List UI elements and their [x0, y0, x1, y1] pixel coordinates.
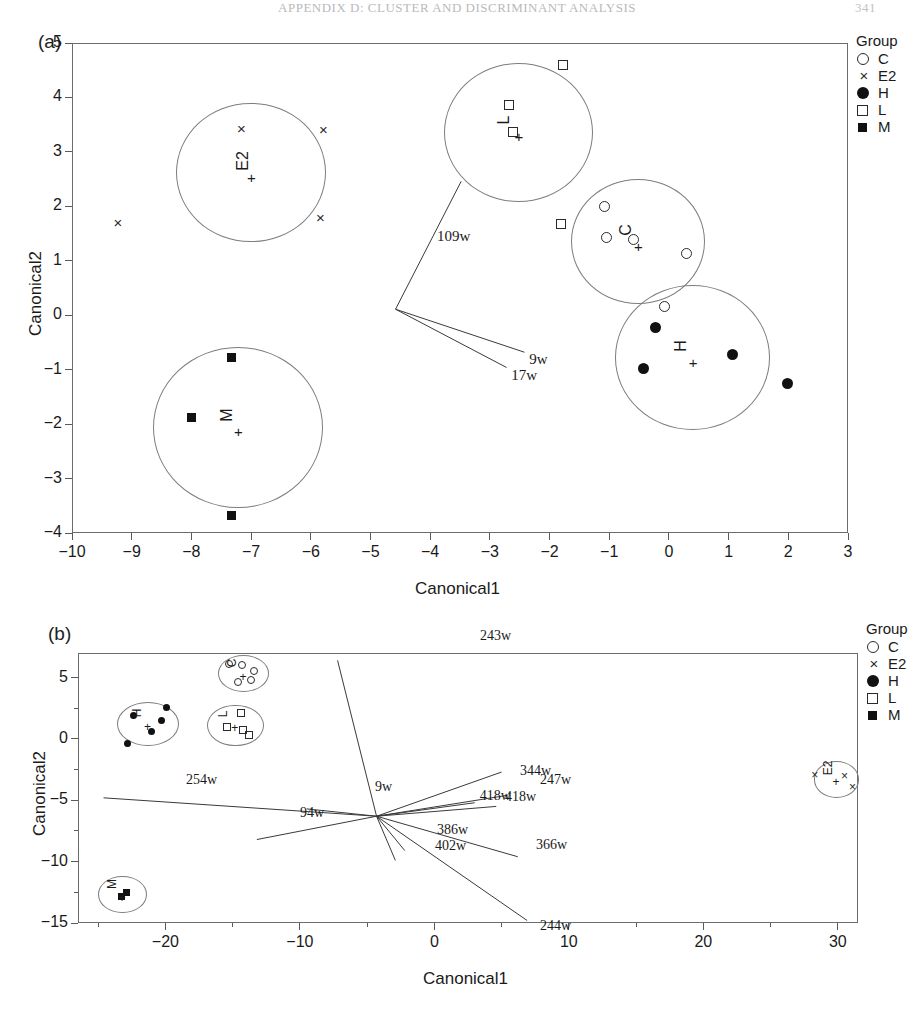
filled-square-icon	[868, 711, 877, 720]
xaxis-tick-major	[848, 533, 849, 540]
open-square-marker	[223, 723, 231, 731]
xaxis-tick-minor	[232, 923, 233, 927]
open-square-icon	[867, 693, 878, 704]
yaxis-tick-major	[65, 206, 72, 207]
xaxis-tick-label: 30	[812, 933, 864, 951]
centroid-plus-marker: +	[234, 424, 243, 439]
xaxis-tick-major	[191, 533, 192, 540]
xaxis-tick-major	[703, 923, 704, 930]
xaxis-tick-minor	[98, 923, 99, 927]
vector-label-386w: 386w	[437, 822, 468, 838]
centroid-plus-marker: +	[118, 892, 125, 904]
figure-page: APPENDIX D: CLUSTER AND DISCRIMINANT ANA…	[0, 0, 914, 1011]
xaxis-tick-label: −8	[165, 543, 217, 561]
cross-x-marker: ×	[811, 769, 818, 781]
vector-label-402w: 402w	[435, 838, 466, 854]
xaxis-tick-minor	[770, 923, 771, 927]
xaxis-tick-label: −4	[404, 543, 456, 561]
xaxis-tick-label: 2	[762, 543, 814, 561]
xaxis-tick-major	[434, 923, 435, 930]
yaxis-tick-minor	[74, 830, 78, 831]
legend-item-c: C	[866, 639, 908, 656]
filled-circle-marker	[727, 349, 738, 360]
vector-label-366w: 366w	[536, 837, 567, 853]
yaxis-tick-label: 2	[24, 196, 62, 214]
vector-label-247w: 247w	[540, 772, 571, 788]
yaxis-tick-label: 1	[24, 251, 62, 269]
yaxis-tick-major	[71, 677, 78, 678]
yaxis-tick-label: −5	[30, 790, 68, 808]
xaxis-tick-major	[728, 533, 729, 540]
xaxis-tick-label: −5	[344, 543, 396, 561]
yaxis-tick-major	[65, 43, 72, 44]
centroid-plus-marker: +	[689, 355, 698, 370]
yaxis-tick-major	[71, 861, 78, 862]
xaxis-tick-label: −9	[106, 543, 158, 561]
centroid-plus-marker: +	[247, 170, 256, 185]
xaxis-tick-major	[430, 533, 431, 540]
vector-label-243w: 243w	[480, 628, 511, 644]
yaxis-tick-label: −2	[24, 414, 62, 432]
cross-x-marker: ×	[237, 121, 246, 136]
yaxis-tick-label: 3	[24, 142, 62, 160]
yaxis-tick-major	[71, 738, 78, 739]
xaxis-tick-label: −3	[464, 543, 516, 561]
xaxis-tick-label: 1	[703, 543, 755, 561]
open-square-marker	[245, 731, 253, 739]
xaxis-tick-major	[668, 533, 669, 540]
filled-circle-icon	[867, 675, 879, 687]
xaxis-tick-label: 10	[543, 933, 595, 951]
open-square-marker	[558, 60, 568, 70]
xaxis-tick-major	[788, 533, 789, 540]
cross-x-icon: ×	[866, 656, 882, 672]
legend-title: Group	[866, 620, 908, 637]
cross-x-marker: ×	[849, 781, 856, 793]
filled-square-marker	[187, 413, 196, 422]
xaxis-tick-minor	[501, 923, 502, 927]
open-square-marker	[556, 219, 566, 229]
xaxis-tick-major	[72, 533, 73, 540]
yaxis-tick-label: −10	[30, 852, 68, 870]
legend-item-e2: × E2	[866, 656, 908, 673]
vector-label-9w: 9w	[529, 351, 547, 368]
cluster-label-l: L	[497, 116, 513, 125]
xaxis-tick-major	[299, 923, 300, 930]
xaxis-tick-label: −10	[274, 933, 326, 951]
yaxis-tick-major	[71, 800, 78, 801]
xaxis-tick-major	[310, 533, 311, 540]
yaxis-tick-major	[71, 923, 78, 924]
vector-ray-243w	[338, 660, 377, 816]
xaxis-tick-label: 20	[677, 933, 729, 951]
yaxis-tick-label: 0	[30, 729, 68, 747]
legend-item-h: H	[866, 673, 908, 690]
yaxis-tick-major	[65, 533, 72, 534]
xaxis-tick-label: −1	[583, 543, 635, 561]
yaxis-tick-label: −4	[24, 523, 62, 541]
xaxis-tick-label: 0	[643, 543, 695, 561]
centroid-plus-marker: +	[634, 239, 643, 254]
yaxis-tick-major	[65, 478, 72, 479]
yaxis-tick-label: 4	[24, 87, 62, 105]
xaxis-tick-minor	[367, 923, 368, 927]
xaxis-tick-label: −20	[139, 933, 191, 951]
open-circle-marker	[681, 248, 692, 259]
legend-label: E2	[888, 656, 906, 672]
vector-label-418w: 418w	[505, 789, 536, 805]
vector-label-94w: 94w	[300, 805, 324, 821]
filled-circle-marker	[638, 363, 649, 374]
cross-x-marker: ×	[319, 122, 328, 137]
centroid-plus-marker: +	[239, 671, 246, 683]
xaxis-tick-label: −10	[46, 543, 98, 561]
xaxis-tick-major	[609, 533, 610, 540]
filled-square-marker	[227, 511, 236, 520]
cross-x-marker: ×	[841, 770, 848, 782]
legend-label: C	[888, 639, 899, 655]
yaxis-tick-label: 5	[30, 668, 68, 686]
open-circle-icon	[867, 641, 879, 653]
yaxis-tick-label: 5	[24, 33, 62, 51]
cluster-label-m: M	[219, 409, 235, 422]
cross-x-marker: ×	[316, 210, 325, 225]
centroid-plus-marker: +	[832, 776, 839, 788]
filled-circle-marker	[163, 704, 170, 711]
centroid-plus-marker: +	[144, 721, 151, 733]
